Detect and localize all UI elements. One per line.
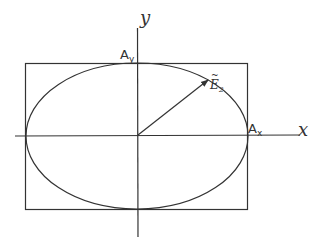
y-axis-label: y <box>139 7 151 28</box>
amplitude-x-label: Ax <box>248 121 263 138</box>
field-vector-arrow <box>138 80 208 135</box>
y-axis <box>138 28 139 237</box>
polarization-diagram: y x Ay Ax ~ E2 <box>0 0 323 248</box>
vector-label: E2 <box>209 78 224 94</box>
amplitude-y-label: Ay <box>120 47 135 64</box>
x-axis-label: x <box>298 119 308 140</box>
